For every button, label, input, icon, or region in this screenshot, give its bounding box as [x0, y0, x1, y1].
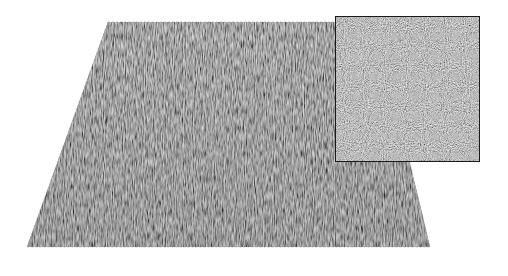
top-view-inset	[335, 16, 480, 162]
noise-texture	[336, 17, 480, 162]
